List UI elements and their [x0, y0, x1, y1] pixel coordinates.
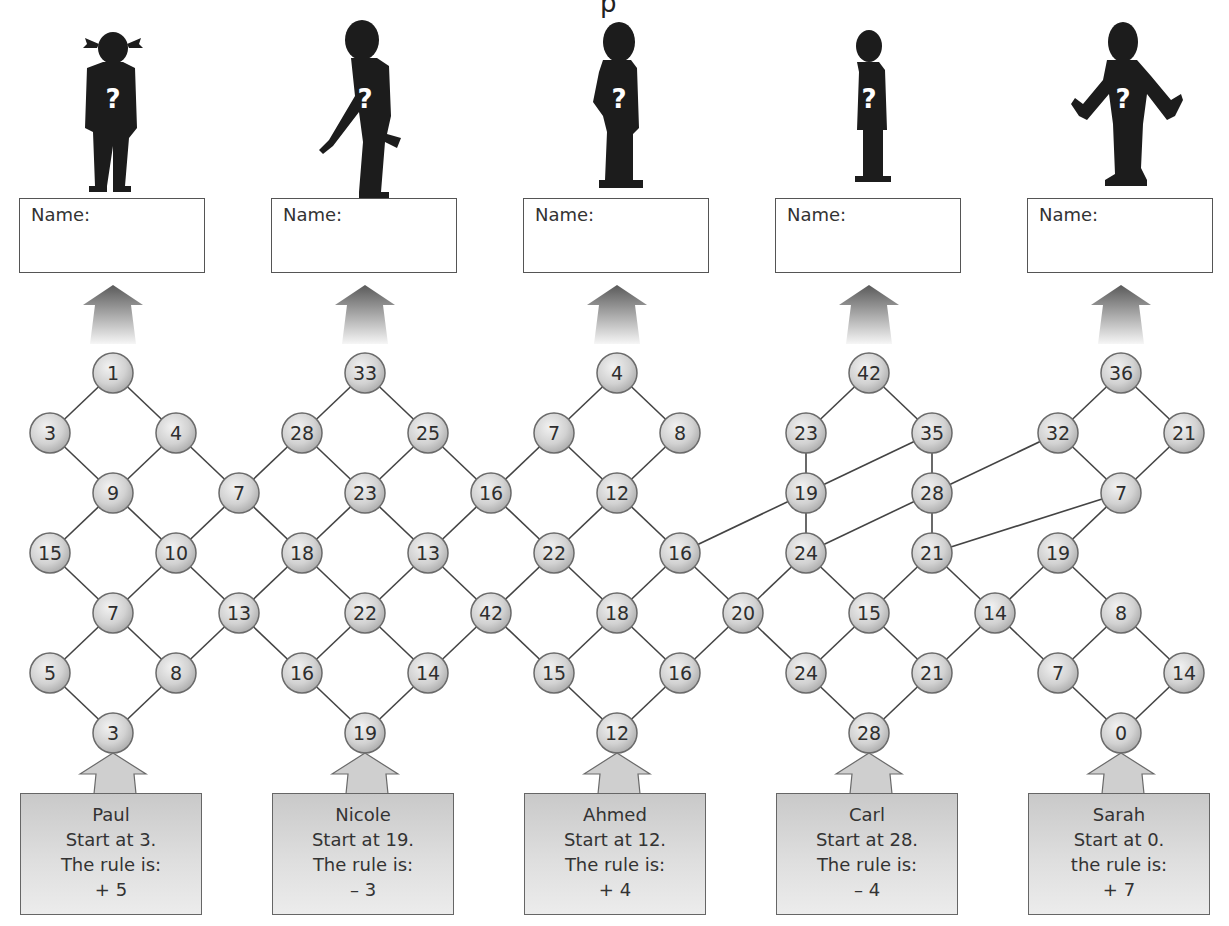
node-value: 7: [233, 482, 245, 504]
number-node[interactable]: 4: [156, 413, 196, 453]
number-node[interactable]: 28: [282, 413, 322, 453]
node-value: 8: [674, 422, 686, 444]
card-rule: + 5: [21, 877, 201, 902]
number-node[interactable]: 24: [786, 653, 826, 693]
number-node[interactable]: 9: [93, 473, 133, 513]
number-node[interactable]: 3: [30, 413, 70, 453]
number-node[interactable]: 18: [282, 533, 322, 573]
number-node[interactable]: 4: [597, 353, 637, 393]
card-name: Ahmed: [525, 802, 705, 827]
number-node[interactable]: 19: [345, 713, 385, 753]
number-node[interactable]: 16: [660, 533, 700, 573]
number-node[interactable]: 14: [1164, 653, 1204, 693]
node-value: 3: [44, 422, 56, 444]
card-rule-label: The rule is:: [273, 852, 453, 877]
rule-card-sarah: Sarah Start at 0. the rule is: + 7: [1028, 793, 1210, 915]
number-node[interactable]: 19: [1038, 533, 1078, 573]
number-node[interactable]: 25: [408, 413, 448, 453]
node-value: 32: [1046, 422, 1070, 444]
number-node[interactable]: 3: [93, 713, 133, 753]
number-node[interactable]: 8: [1101, 593, 1141, 633]
number-node[interactable]: 1: [93, 353, 133, 393]
number-node[interactable]: 18: [597, 593, 637, 633]
number-node[interactable]: 28: [849, 713, 889, 753]
number-node[interactable]: 12: [597, 713, 637, 753]
number-node[interactable]: 42: [849, 353, 889, 393]
card-start: Start at 3.: [21, 827, 201, 852]
number-node[interactable]: 42: [471, 593, 511, 633]
number-node[interactable]: 22: [345, 593, 385, 633]
number-node[interactable]: 20: [723, 593, 763, 633]
number-node[interactable]: 13: [219, 593, 259, 633]
number-node[interactable]: 24: [786, 533, 826, 573]
node-value: 9: [107, 482, 119, 504]
node-value: 24: [794, 542, 818, 564]
number-node[interactable]: 10: [156, 533, 196, 573]
number-node[interactable]: 0: [1101, 713, 1141, 753]
card-start: Start at 0.: [1029, 827, 1209, 852]
number-node[interactable]: 15: [534, 653, 574, 693]
number-node[interactable]: 8: [156, 653, 196, 693]
node-value: 21: [1172, 422, 1196, 444]
node-value: 42: [479, 602, 503, 624]
number-node[interactable]: 15: [30, 533, 70, 573]
node-value: 5: [44, 662, 56, 684]
node-value: 36: [1109, 362, 1133, 384]
number-node[interactable]: 16: [471, 473, 511, 513]
number-node[interactable]: 21: [1164, 413, 1204, 453]
node-value: 14: [983, 602, 1007, 624]
up-arrows-to-names: [83, 285, 1151, 344]
node-value: 28: [920, 482, 944, 504]
number-node[interactable]: 21: [912, 653, 952, 693]
number-node[interactable]: 35: [912, 413, 952, 453]
node-value: 19: [353, 722, 377, 744]
up-arrow-icon: [1091, 285, 1151, 344]
number-node[interactable]: 7: [219, 473, 259, 513]
number-node[interactable]: 7: [1101, 473, 1141, 513]
card-rule: – 4: [777, 877, 957, 902]
card-start: Start at 12.: [525, 827, 705, 852]
number-node[interactable]: 7: [93, 593, 133, 633]
worksheet: p ? ? ?: [0, 0, 1229, 926]
node-value: 13: [227, 602, 251, 624]
number-node[interactable]: 22: [534, 533, 574, 573]
number-node[interactable]: 12: [597, 473, 637, 513]
graph-edge: [806, 493, 932, 553]
node-value: 19: [794, 482, 818, 504]
number-node[interactable]: 5: [30, 653, 70, 693]
number-node[interactable]: 23: [786, 413, 826, 453]
number-node[interactable]: 32: [1038, 413, 1078, 453]
card-arrow-icon: [332, 753, 398, 794]
card-name: Paul: [21, 802, 201, 827]
number-node[interactable]: 14: [975, 593, 1015, 633]
card-rule: + 7: [1029, 877, 1209, 902]
graph-edge: [680, 493, 806, 553]
node-value: 7: [548, 422, 560, 444]
number-node[interactable]: 13: [408, 533, 448, 573]
number-node[interactable]: 28: [912, 473, 952, 513]
number-node[interactable]: 14: [408, 653, 448, 693]
card-rule: + 4: [525, 877, 705, 902]
number-node[interactable]: 36: [1101, 353, 1141, 393]
node-value: 14: [1172, 662, 1196, 684]
number-node[interactable]: 16: [282, 653, 322, 693]
number-node[interactable]: 16: [660, 653, 700, 693]
number-node[interactable]: 21: [912, 533, 952, 573]
rule-card-ahmed: Ahmed Start at 12. The rule is: + 4: [524, 793, 706, 915]
number-node[interactable]: 19: [786, 473, 826, 513]
node-value: 16: [668, 662, 692, 684]
rule-card-paul: Paul Start at 3. The rule is: + 5: [20, 793, 202, 915]
node-value: 7: [1052, 662, 1064, 684]
node-value: 4: [611, 362, 623, 384]
node-value: 12: [605, 722, 629, 744]
card-rule-label: The rule is:: [21, 852, 201, 877]
node-value: 14: [416, 662, 440, 684]
number-node[interactable]: 15: [849, 593, 889, 633]
number-node[interactable]: 7: [534, 413, 574, 453]
node-value: 10: [164, 542, 188, 564]
number-node[interactable]: 8: [660, 413, 700, 453]
number-node[interactable]: 33: [345, 353, 385, 393]
number-node[interactable]: 7: [1038, 653, 1078, 693]
node-value: 0: [1115, 722, 1127, 744]
number-node[interactable]: 23: [345, 473, 385, 513]
